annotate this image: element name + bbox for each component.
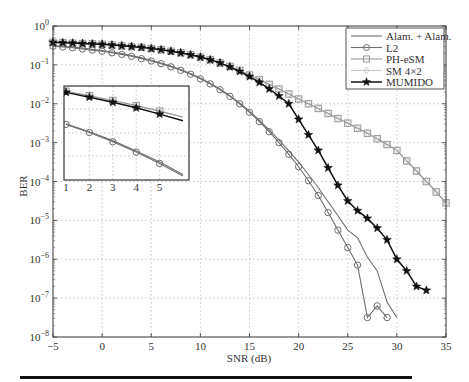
legend-label: Alam. + Alam. xyxy=(386,30,452,42)
x-tick-label: 10 xyxy=(195,340,207,352)
y-tick-label: 10−8 xyxy=(29,329,49,343)
legend-label: SM 4×2 xyxy=(386,65,422,77)
y-axis-label: BER xyxy=(17,175,29,197)
y-tick-label: 10−3 xyxy=(29,135,49,149)
x-tick-label: 35 xyxy=(441,340,453,352)
x-tick-label: 25 xyxy=(342,340,354,352)
y-tick-label: 10−6 xyxy=(29,251,49,265)
y-tick-label: 10−7 xyxy=(29,290,49,304)
ber-chart: 12345 −50510152025303510010−110−210−310−… xyxy=(0,0,469,382)
inset-x-tick-label: 2 xyxy=(87,181,93,193)
y-tick-label: 10−1 xyxy=(29,57,49,71)
x-axis-label: SNR (dB) xyxy=(227,352,272,365)
inset-x-tick-label: 4 xyxy=(133,181,139,193)
legend-label: L2 xyxy=(386,42,398,54)
inset-x-tick-label: 3 xyxy=(110,181,116,193)
x-tick-label: 15 xyxy=(244,340,256,352)
page-rule xyxy=(20,376,412,379)
y-tick-label: 100 xyxy=(34,18,49,32)
x-tick-label: 5 xyxy=(149,340,155,352)
x-tick-label: 0 xyxy=(99,340,105,352)
inset-x-tick-label: 1 xyxy=(63,181,69,193)
series-l2 xyxy=(50,43,390,321)
x-tick-label: 20 xyxy=(293,340,305,352)
x-tick-label: −5 xyxy=(47,340,59,352)
inset-x-tick-label: 5 xyxy=(157,181,163,193)
legend-label: PH-eSM xyxy=(386,53,425,65)
legend-label: MUMIDO xyxy=(386,76,433,88)
legend: Alam. + Alam.L2PH-eSMSM 4×2MUMIDO xyxy=(346,28,452,89)
y-tick-label: 10−5 xyxy=(29,212,49,226)
y-tick-label: 10−2 xyxy=(29,96,49,110)
inset-zoom-plot: 12345 xyxy=(62,86,189,193)
x-tick-label: 30 xyxy=(391,340,403,352)
y-tick-label: 10−4 xyxy=(29,174,49,188)
